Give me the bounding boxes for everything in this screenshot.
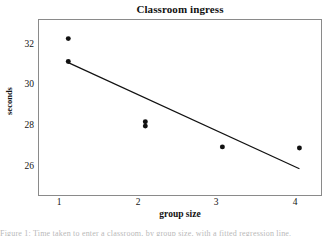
chart-title: Classroom ingress [38,3,322,15]
figure-container: Classroom ingress 32 30 28 26 seconds 1 … [0,0,336,236]
data-point [297,145,302,150]
data-point [143,119,148,124]
plot-area [38,19,322,196]
plot-svg [39,20,321,195]
regression-line [68,63,299,169]
x-axis-title: group size [38,209,322,219]
x-tick-label-2: 2 [126,197,150,207]
data-point [66,59,71,64]
data-point [143,124,148,129]
data-point [66,36,71,41]
y-axis-title: seconds [4,71,14,131]
figure-caption: Figure 1: Time taken to enter a classroo… [0,229,336,236]
y-tick-label-32: 32 [8,39,34,49]
x-tick-label-1: 1 [47,197,71,207]
y-tick-label-26: 26 [8,161,34,171]
x-tick-label-3: 3 [204,197,228,207]
x-tick-label-4: 4 [283,197,307,207]
data-point [220,144,225,149]
